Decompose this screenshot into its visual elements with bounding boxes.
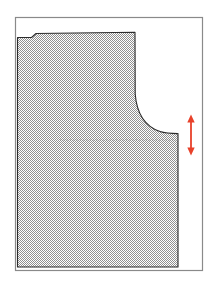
pattern-diagram-canvas [0,0,219,287]
diagram-page [0,0,219,287]
